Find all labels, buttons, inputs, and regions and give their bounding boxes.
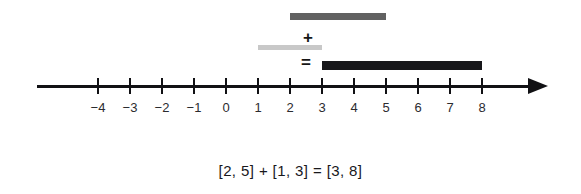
- axis-arrowhead-icon: [528, 78, 548, 94]
- axis-tick-label: 7: [435, 100, 465, 115]
- interval-arithmetic-figure: + = −4 −3 −2 −1 0 1 2 3 4 5 6 7 8 [2, 5]…: [0, 0, 581, 194]
- interval-bar-a: [290, 13, 386, 20]
- axis-tick-label: 4: [339, 100, 369, 115]
- axis-tick-label: −4: [83, 100, 113, 115]
- axis-tick-label: 1: [243, 100, 273, 115]
- axis-tick-label: 8: [467, 100, 497, 115]
- axis-tick: [353, 78, 355, 94]
- axis-tick: [481, 78, 483, 94]
- axis-tick-label: 0: [211, 100, 241, 115]
- axis-tick: [97, 78, 99, 94]
- axis-tick-label: 6: [403, 100, 433, 115]
- axis-tick-label: −2: [147, 100, 177, 115]
- axis-tick: [449, 78, 451, 94]
- axis-tick-label: 2: [275, 100, 305, 115]
- axis-tick: [289, 78, 291, 94]
- number-line-axis: [37, 85, 534, 88]
- axis-tick: [193, 78, 195, 94]
- axis-tick: [321, 78, 323, 94]
- plus-operator: +: [297, 29, 319, 46]
- axis-tick: [129, 78, 131, 94]
- axis-tick: [257, 78, 259, 94]
- axis-tick-label: 5: [371, 100, 401, 115]
- axis-tick-label: −3: [115, 100, 145, 115]
- equals-operator: =: [295, 54, 317, 71]
- axis-tick: [417, 78, 419, 94]
- figure-caption: [2, 5] + [1, 3] = [3, 8]: [0, 162, 581, 179]
- interval-bar-b: [258, 45, 322, 50]
- interval-bar-sum: [322, 61, 482, 70]
- axis-tick: [385, 78, 387, 94]
- axis-tick-label: 3: [307, 100, 337, 115]
- axis-tick: [161, 78, 163, 94]
- axis-tick: [225, 78, 227, 94]
- axis-tick-label: −1: [179, 100, 209, 115]
